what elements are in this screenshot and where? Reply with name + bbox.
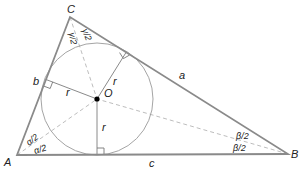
bisector-b [97,99,288,154]
incenter-dot [94,96,99,101]
side-label-a: a [179,69,185,81]
side-label-b: b [33,75,39,87]
angle-label-beta-lower: β/2 [232,143,246,153]
radius-to-b [46,80,97,100]
radius-label-c: r [102,121,107,133]
vertex-label-a: A [3,156,11,168]
side-label-c: c [149,157,155,169]
angle-label-alpha-lower: α/2 [33,142,48,155]
incenter-label: O [104,87,113,99]
radius-label-b: r [66,86,71,98]
radius-label-a: r [113,75,118,87]
angle-label-beta-upper: β/2 [235,131,249,141]
vertex-label-c: C [67,3,75,15]
angle-label-gamma-left: γ/2 [67,32,79,46]
angle-label-gamma-right: γ/2 [80,27,94,42]
incircle-diagram: A B C O a b c r r r α/2 α/2 β/2 β/2 γ/2 … [0,0,299,171]
vertex-label-b: B [291,148,298,160]
